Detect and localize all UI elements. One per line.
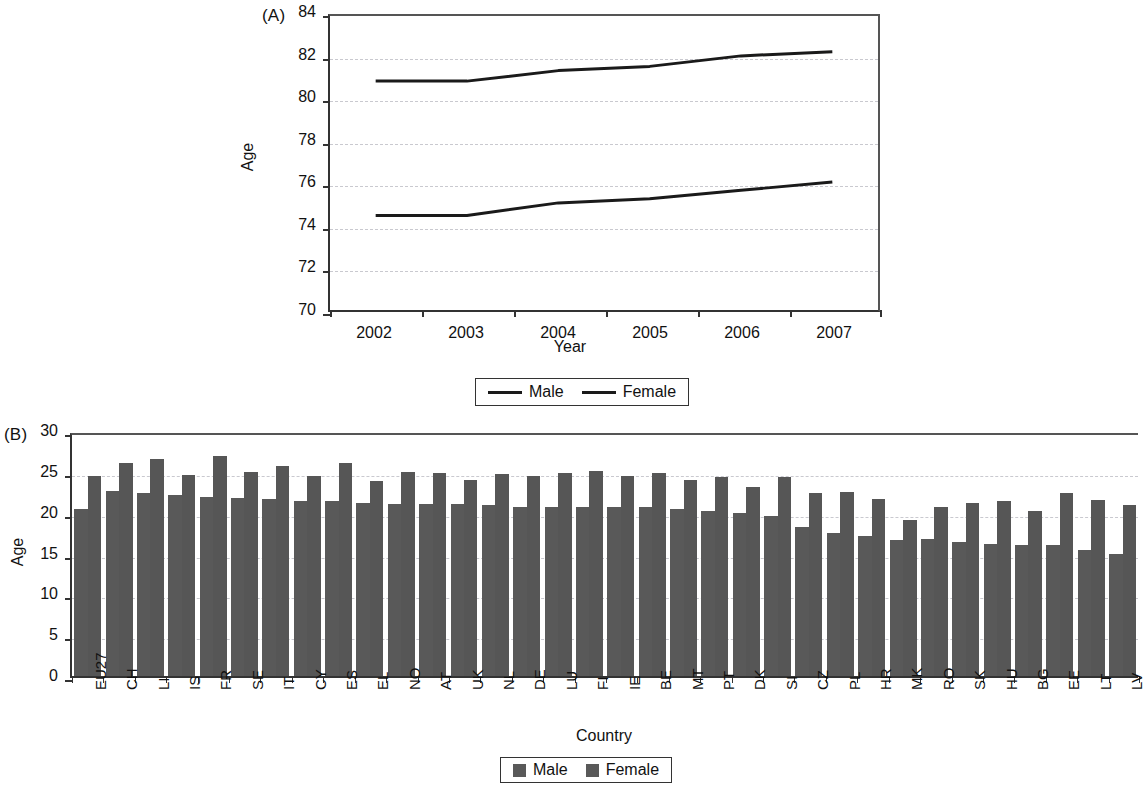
bar-group <box>919 435 950 676</box>
bar-female <box>88 476 101 676</box>
category-label: CY <box>312 669 329 690</box>
category-label: UK <box>469 669 486 690</box>
category-label: MK <box>908 668 925 691</box>
bar-male <box>231 498 244 676</box>
bar-male <box>984 544 997 676</box>
bar-group <box>950 435 981 676</box>
y-tick-label: 78 <box>282 131 316 149</box>
category-label: MT <box>689 668 706 690</box>
y-tick-label: 5 <box>24 626 58 644</box>
legend-label-male: Male <box>529 383 564 401</box>
y-tick-label: 84 <box>282 3 316 21</box>
bar-group <box>480 435 511 676</box>
y-tick-mark <box>65 476 72 478</box>
bar-group <box>135 435 166 676</box>
bar-group <box>229 435 260 676</box>
category-label: CH <box>123 668 140 690</box>
y-tick-mark <box>323 229 330 231</box>
bar-male <box>482 505 495 676</box>
square-swatch-male-icon <box>513 764 526 777</box>
category-label: BG <box>1034 668 1051 690</box>
category-label: SE <box>249 670 266 690</box>
bar-group <box>1044 435 1075 676</box>
x-tick-mark <box>330 310 332 317</box>
category-label: LV <box>1128 673 1145 690</box>
y-tick-mark <box>323 271 330 273</box>
bar-male <box>74 509 87 676</box>
category-label: HR <box>877 668 894 690</box>
category-label: ES <box>343 670 360 690</box>
x-tick-mark <box>514 310 516 317</box>
bar-male <box>200 497 213 676</box>
bar-male <box>827 533 840 676</box>
bar-group <box>825 435 856 676</box>
category-label: IS <box>186 676 203 690</box>
y-tick-label: 10 <box>24 585 58 603</box>
bar-male <box>356 503 369 676</box>
legend-item-male: Male <box>488 383 564 401</box>
category-label: FI <box>594 677 611 690</box>
y-tick-label: 82 <box>282 46 316 64</box>
bar-female <box>621 476 634 676</box>
y-tick-label: 30 <box>24 422 58 440</box>
bar-male <box>890 540 903 676</box>
bar-male <box>701 511 714 676</box>
y-tick-mark <box>323 101 330 103</box>
x-tick-mark <box>606 310 608 317</box>
bar-female <box>1091 500 1104 676</box>
category-label: HU <box>1003 668 1020 690</box>
bar-female <box>746 487 759 676</box>
bar-group <box>1076 435 1107 676</box>
category-label: EE <box>1065 670 1082 690</box>
bar-female <box>433 473 446 676</box>
category-label: EU27 <box>92 652 109 690</box>
series-line-female <box>376 52 833 81</box>
bar-male <box>168 495 181 676</box>
category-label: LU <box>563 671 580 690</box>
y-tick-mark <box>65 435 72 437</box>
bar-female <box>276 466 289 676</box>
legend-label-male: Male <box>533 761 568 779</box>
bar-male <box>137 493 150 676</box>
line-swatch-female-icon <box>582 391 616 394</box>
y-tick-label: 80 <box>282 88 316 106</box>
bar-group <box>197 435 228 676</box>
bar-male <box>545 507 558 676</box>
bar-male <box>670 509 683 676</box>
legend-label-female: Female <box>606 761 659 779</box>
bar-female <box>401 472 414 676</box>
bar-group <box>981 435 1012 676</box>
bar-group <box>292 435 323 676</box>
bar-female <box>1028 511 1041 676</box>
legend-item-female: Female <box>586 761 659 779</box>
bar-male <box>795 527 808 676</box>
y-tick-mark <box>65 558 72 560</box>
x-tick-mark <box>698 310 700 317</box>
bar-female <box>872 499 885 676</box>
panel-a-y-axis-title: Age <box>239 127 257 187</box>
category-label: DK <box>751 669 768 690</box>
bar-female <box>558 473 571 676</box>
y-tick-mark <box>323 144 330 146</box>
x-tick-mark <box>790 310 792 317</box>
bar-male <box>419 504 432 676</box>
bar-female <box>464 480 477 676</box>
category-label: IE <box>626 676 643 690</box>
y-tick-label: 72 <box>282 258 316 276</box>
bar-group <box>636 435 667 676</box>
category-label: NL <box>500 671 517 690</box>
bar-female <box>715 477 728 676</box>
category-label: RO <box>940 668 957 691</box>
y-tick-label: 20 <box>24 504 58 522</box>
panel-a-x-axis-title: Year <box>0 338 1140 356</box>
bar-female <box>809 493 822 676</box>
panel-a-plot-area <box>328 14 880 312</box>
bar-group <box>668 435 699 676</box>
panel-b-legend: Male Female <box>500 757 672 783</box>
x-tick-mark <box>880 310 882 317</box>
bar-male <box>1078 550 1091 676</box>
bar-male <box>106 491 119 676</box>
bar-male <box>262 499 275 676</box>
bar-group <box>856 435 887 676</box>
y-tick-label: 74 <box>282 216 316 234</box>
